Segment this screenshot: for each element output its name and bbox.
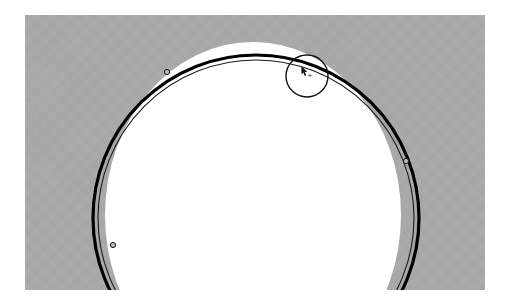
vector-drawing-layer[interactable] [0,0,510,308]
anchor-point-top-left[interactable] [164,69,169,74]
anchor-point-bottom-left[interactable] [110,242,115,247]
screenshot-stage [0,0,510,308]
anchor-point-right[interactable] [403,158,408,163]
white-ellipse-fill[interactable] [105,42,401,308]
clipped-artwork-group [93,42,419,308]
